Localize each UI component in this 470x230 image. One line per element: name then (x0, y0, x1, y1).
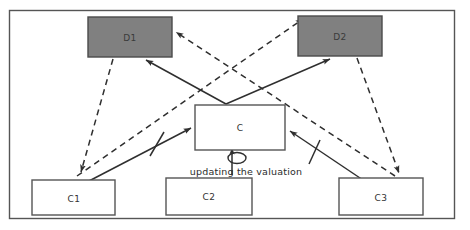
edge-label-updating-group: updating the valuation (190, 166, 302, 177)
node-c-label: C (237, 123, 244, 133)
node-c[interactable]: C (195, 105, 285, 150)
edge-label-updating: updating the valuation (190, 166, 302, 177)
node-c1[interactable]: C1 (32, 180, 115, 215)
node-c2-label: C2 (203, 192, 216, 202)
node-d1-label: D1 (123, 33, 136, 43)
node-c3-label: C3 (375, 193, 388, 203)
diagram-canvas: D1 D2 C C1 C2 C3 updating the val (0, 0, 470, 230)
node-d2[interactable]: D2 (298, 16, 382, 56)
node-d2-label: D2 (333, 32, 346, 42)
node-c1-label: C1 (68, 194, 81, 204)
node-c3[interactable]: C3 (339, 178, 423, 215)
diagram-svg: D1 D2 C C1 C2 C3 updating the val (0, 0, 470, 230)
node-d1[interactable]: D1 (88, 17, 172, 57)
node-c2[interactable]: C2 (166, 178, 252, 215)
